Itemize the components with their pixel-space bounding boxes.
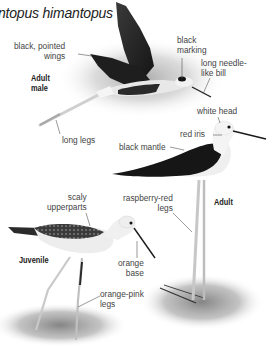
label-black-marking: black marking [177,36,207,55]
label-scaly-upperparts: scaly upperparts [47,193,87,212]
species-title: ntopus himantopus [0,5,113,21]
label-long-legs: long legs [62,136,95,146]
adult-ground-shadow [140,274,264,330]
label-black-mantle: black mantle [119,143,166,153]
label-long-needle-like-bill: long needle- like bill [201,59,247,78]
label-raspberry-red-legs: raspberry-red legs [123,194,173,213]
label-black-pointed-wings: black, pointed wings [14,42,65,61]
label-white-head: white head [197,107,237,117]
label-red-iris: red iris [180,130,205,140]
label-orange-pink-legs: orange-pink legs [100,290,144,309]
tag-adult: Adult [214,197,233,207]
juvenile-water-shadow [0,303,128,347]
label-orange-base: orange base [118,259,144,278]
field-guide-page: ntopus himantopus black, pointed wings A… [0,0,273,348]
tag-adult-male: Adult male [31,73,50,93]
tag-juvenile: Juvenile [19,255,49,265]
